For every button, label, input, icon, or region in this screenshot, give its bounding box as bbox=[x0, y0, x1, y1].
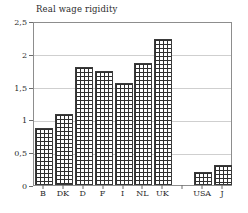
bar-j bbox=[214, 165, 232, 185]
y-tick-label: 2,5 bbox=[14, 18, 27, 27]
y-tick-label: 1,5 bbox=[14, 83, 27, 92]
y-axis: 00,511,522,5 bbox=[0, 0, 33, 213]
x-tick-label: I bbox=[121, 189, 124, 198]
x-tick-label: D bbox=[80, 189, 86, 198]
y-tick-label: 2 bbox=[22, 50, 27, 59]
x-tick-mark bbox=[182, 185, 183, 189]
x-tick-label: NL bbox=[136, 189, 148, 198]
x-tick-label: F bbox=[100, 189, 106, 198]
x-tick-label: B bbox=[40, 189, 46, 198]
plot-area bbox=[33, 22, 232, 186]
bar-uk bbox=[154, 39, 172, 185]
x-tick-label: DK bbox=[57, 189, 69, 198]
bar-i bbox=[115, 83, 133, 185]
y-tick-label: 1 bbox=[22, 116, 27, 125]
x-tick-label: UK bbox=[156, 189, 169, 198]
x-tick-label: USA bbox=[193, 189, 211, 198]
y-tick-label: 0 bbox=[22, 182, 27, 191]
bar-usa bbox=[194, 172, 212, 185]
gridline bbox=[34, 55, 231, 56]
chart-title: Real wage rigidity bbox=[36, 4, 117, 14]
x-axis: BDKDFINLUKUSAJ bbox=[33, 189, 232, 211]
y-tick-mark bbox=[29, 186, 33, 187]
real-wage-rigidity-chart: Real wage rigidity 00,511,522,5 BDKDFINL… bbox=[0, 0, 248, 213]
bar-nl bbox=[134, 63, 152, 185]
bar-b bbox=[35, 128, 53, 185]
x-tick-label: J bbox=[220, 189, 223, 198]
bar-d bbox=[75, 67, 93, 185]
y-tick-label: 0,5 bbox=[14, 149, 27, 158]
bar-f bbox=[95, 71, 113, 185]
bar-dk bbox=[55, 114, 73, 185]
